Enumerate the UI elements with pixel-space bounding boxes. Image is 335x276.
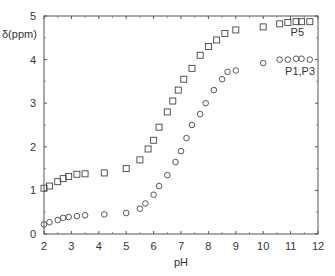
titration-chart: 23456789101112012345 pHδ(ppm)P5P1,P3: [0, 0, 335, 276]
circle-marker: [82, 212, 88, 218]
series-label: P5: [291, 26, 304, 38]
circle-marker: [211, 87, 217, 93]
circle-marker: [184, 135, 190, 141]
square-marker: [307, 19, 313, 25]
data-points: [41, 19, 313, 228]
y-tick-label: 1: [30, 184, 36, 196]
circle-marker: [66, 214, 72, 220]
circle-marker: [219, 76, 225, 82]
y-tick-label: 3: [30, 97, 36, 109]
circle-marker: [60, 215, 66, 221]
square-marker: [197, 52, 203, 58]
square-marker: [214, 37, 220, 43]
square-marker: [151, 137, 157, 143]
square-marker: [277, 21, 283, 27]
square-marker: [137, 157, 143, 163]
square-marker: [181, 76, 187, 82]
circle-marker: [285, 57, 291, 63]
circle-marker: [74, 213, 80, 219]
y-tick-label: 0: [30, 228, 36, 240]
y-tick-label: 2: [30, 141, 36, 153]
square-marker: [82, 171, 88, 177]
x-tick-label: 5: [123, 240, 129, 252]
x-tick-label: 11: [285, 240, 296, 252]
x-tick-label: 9: [233, 240, 239, 252]
y-axis-label: δ(ppm): [2, 28, 37, 40]
circle-marker: [173, 159, 179, 165]
square-marker: [260, 24, 266, 30]
circle-marker: [47, 219, 53, 225]
square-marker: [156, 124, 162, 130]
circle-marker: [260, 60, 266, 66]
plot-frame: [44, 16, 318, 234]
square-marker: [123, 166, 129, 172]
circle-marker: [225, 69, 231, 75]
x-tick-label: 10: [257, 240, 269, 252]
square-marker: [101, 170, 107, 176]
x-axis-label: pH: [174, 256, 188, 268]
circle-marker: [156, 183, 162, 189]
square-marker: [170, 98, 176, 104]
circle-marker: [143, 201, 149, 207]
series-label: P1,P3: [285, 65, 315, 77]
x-tick-label: 4: [96, 240, 102, 252]
x-tick-label: 6: [151, 240, 157, 252]
y-tick-label: 5: [30, 10, 36, 22]
square-marker: [233, 27, 239, 33]
square-marker: [189, 65, 195, 71]
circle-marker: [203, 100, 209, 106]
circle-marker: [137, 206, 143, 212]
circle-marker: [55, 217, 61, 223]
circle-marker: [233, 68, 239, 74]
circle-marker: [277, 57, 283, 63]
circle-marker: [293, 56, 299, 62]
circle-marker: [307, 57, 313, 63]
circle-marker: [123, 210, 129, 216]
x-tick-label: 7: [178, 240, 184, 252]
circle-marker: [151, 192, 157, 198]
x-tick-label: 12: [312, 240, 324, 252]
square-marker: [145, 146, 151, 152]
square-marker: [175, 87, 181, 93]
x-tick-label: 3: [68, 240, 74, 252]
circle-marker: [178, 148, 184, 154]
square-marker: [222, 30, 228, 36]
y-tick-label: 4: [30, 54, 36, 66]
circle-marker: [299, 56, 305, 62]
square-marker: [164, 109, 170, 115]
x-tick-label: 2: [41, 240, 47, 252]
x-tick-label: 8: [205, 240, 211, 252]
circle-marker: [197, 111, 203, 117]
square-marker: [74, 171, 80, 177]
circle-marker: [189, 122, 195, 128]
circle-marker: [101, 212, 107, 218]
chart-labels: pHδ(ppm)P5P1,P3: [2, 26, 315, 268]
square-marker: [205, 44, 211, 50]
circle-marker: [165, 172, 171, 178]
